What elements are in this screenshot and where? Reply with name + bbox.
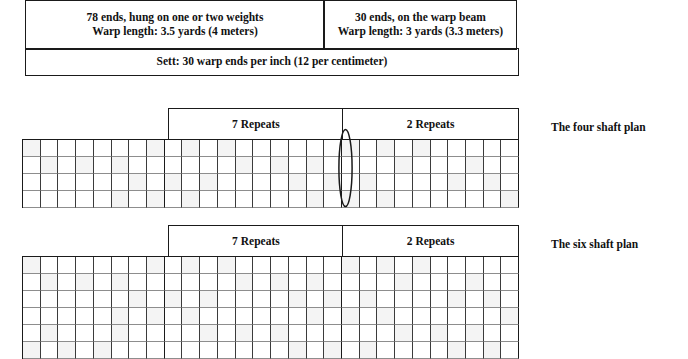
threading-grid-cell — [200, 308, 218, 325]
threading-grid-cell — [271, 274, 289, 291]
threading-grid-cell — [342, 342, 360, 359]
threading-grid-cell — [200, 325, 218, 342]
threading-grid-cell — [253, 174, 271, 191]
threading-grid-cell — [182, 191, 200, 208]
warp-beam-ends-text: 30 ends, on the warp beam — [355, 11, 486, 25]
threading-grid-cell — [377, 325, 395, 342]
threading-grid-cell — [466, 325, 484, 342]
threading-grid-row — [23, 308, 519, 325]
threading-grid-cell — [377, 191, 395, 208]
threading-grid-cell — [112, 140, 130, 157]
threading-grid-cell — [94, 325, 112, 342]
threading-grid-cell — [23, 274, 41, 291]
threading-grid-cell — [360, 157, 378, 174]
threading-grid-cell — [307, 191, 325, 208]
threading-grid-cell — [466, 191, 484, 208]
threading-grid-cell — [289, 174, 307, 191]
threading-grid-cell — [360, 325, 378, 342]
threading-grid-cell — [94, 140, 112, 157]
threading-grid-cell — [271, 157, 289, 174]
threading-grid-cell — [200, 140, 218, 157]
threading-grid-cell — [501, 140, 519, 157]
threading-grid-cell — [41, 174, 59, 191]
threading-grid-cell — [377, 308, 395, 325]
threading-grid-cell — [236, 342, 254, 359]
threading-grid-cell — [200, 157, 218, 174]
threading-grid-cell — [23, 308, 41, 325]
threading-grid-cell — [94, 291, 112, 308]
threading-grid-cell — [218, 157, 236, 174]
threading-grid-cell — [112, 174, 130, 191]
threading-grid-cell — [129, 157, 147, 174]
threading-grid-cell — [200, 257, 218, 274]
threading-grid-cell — [129, 140, 147, 157]
threading-grid-cell — [431, 157, 449, 174]
threading-grid-cell — [395, 342, 413, 359]
threading-grid-cell — [431, 308, 449, 325]
threading-grid-cell — [413, 274, 431, 291]
threading-grid-cell — [484, 257, 502, 274]
threading-grid-cell — [253, 257, 271, 274]
threading-grid-cell — [484, 174, 502, 191]
threading-grid-cell — [23, 191, 41, 208]
threading-grid-cell — [413, 325, 431, 342]
threading-grid-cell — [218, 174, 236, 191]
threading-grid-cell — [395, 257, 413, 274]
threading-grid-cell — [236, 191, 254, 208]
threading-grid-cell — [413, 342, 431, 359]
threading-grid-cell — [147, 342, 165, 359]
threading-grid-row — [23, 191, 519, 208]
threading-grid-cell — [129, 174, 147, 191]
threading-grid-cell — [360, 274, 378, 291]
threading-grid-cell — [147, 325, 165, 342]
threading-grid-cell — [501, 291, 519, 308]
threading-grid-cell — [431, 257, 449, 274]
repeats-bar: 7 Repeats 2 Repeats — [168, 225, 519, 257]
threading-grid-cell — [218, 325, 236, 342]
threading-grid-row — [23, 291, 519, 308]
threading-grid-cell — [324, 157, 342, 174]
threading-grid-cell — [112, 325, 130, 342]
threading-grid-cell — [466, 174, 484, 191]
threading-grid-cell — [236, 174, 254, 191]
threading-grid-cell — [342, 157, 360, 174]
threading-grid-cell — [307, 308, 325, 325]
spec-cell-sett: Sett: 30 warp ends per inch (12 per cent… — [25, 48, 519, 76]
threading-grid-cell — [182, 140, 200, 157]
threading-grid-cell — [448, 342, 466, 359]
threading-grid-cell — [448, 174, 466, 191]
threading-grid-cell — [58, 274, 76, 291]
threading-grid-cell — [41, 291, 59, 308]
spec-cell-warp-beam: 30 ends, on the warp beam Warp length: 3… — [323, 0, 517, 50]
threading-grid-cell — [253, 291, 271, 308]
threading-grid-cell — [76, 342, 94, 359]
threading-grid-row — [23, 174, 519, 191]
threading-grid-cell — [147, 291, 165, 308]
threading-grid-row — [23, 157, 519, 174]
threading-grid-cell — [271, 174, 289, 191]
threading-grid-cell — [41, 157, 59, 174]
threading-grid-cell — [76, 157, 94, 174]
threading-grid-cell — [41, 342, 59, 359]
threading-grid-cell — [147, 140, 165, 157]
threading-grid-cell — [76, 308, 94, 325]
threading-grid-cell — [129, 308, 147, 325]
threading-grid-cell — [377, 291, 395, 308]
threading-grid-cell — [466, 291, 484, 308]
threading-grid-cell — [218, 291, 236, 308]
warp-weighted-length-text: Warp length: 3.5 yards (4 meters) — [92, 25, 257, 39]
threading-grid-cell — [395, 291, 413, 308]
threading-grid-cell — [147, 174, 165, 191]
threading-grid-cell — [342, 257, 360, 274]
threading-grid-cell — [147, 257, 165, 274]
threading-grid-cell — [307, 342, 325, 359]
threading-grid-cell — [94, 174, 112, 191]
threading-grid-cell — [23, 291, 41, 308]
threading-grid-cell — [112, 257, 130, 274]
threading-grid-cell — [484, 191, 502, 208]
threading-grid-cell — [147, 274, 165, 291]
threading-grid-cell — [253, 308, 271, 325]
warp-weighted-ends-text: 78 ends, hung on one or two weights — [87, 11, 264, 25]
threading-grid-cell — [112, 308, 130, 325]
threading-grid-cell — [218, 342, 236, 359]
